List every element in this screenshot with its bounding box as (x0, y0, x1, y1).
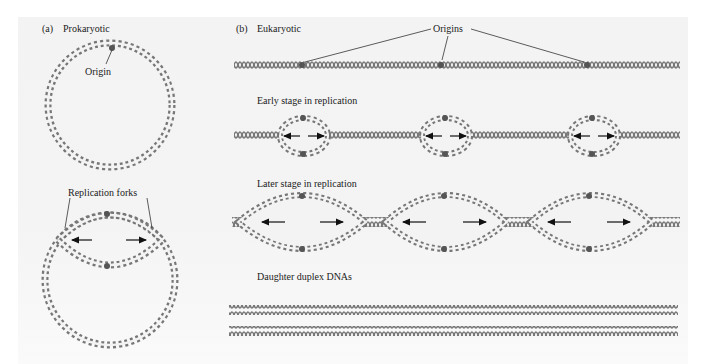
daughter-duplex-1 (229, 305, 678, 315)
origin-marker (104, 211, 110, 217)
later-stage-dna (232, 193, 680, 252)
origin-marker (299, 62, 305, 68)
origin-marker (104, 263, 110, 269)
prokaryotic-replicating-chromosome (45, 215, 175, 345)
daughter-duplex-2 (229, 326, 678, 336)
early-stage-dna (234, 115, 680, 157)
origins-pointers (305, 29, 584, 62)
origin-pointer (106, 50, 112, 64)
prokaryotic-chromosome (48, 43, 172, 167)
origin-marker (584, 62, 590, 68)
replication-diagram (0, 0, 709, 364)
fork-pointer-left (65, 198, 70, 228)
origin-marker (438, 62, 444, 68)
